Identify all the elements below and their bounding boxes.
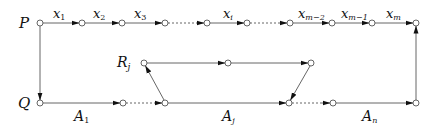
nodes [37,20,419,106]
label-xi: xi [223,6,233,22]
label-A1: A1 [72,108,89,125]
label-Q: Q [18,94,30,112]
label-R: Rj [116,54,131,72]
node-P [37,20,43,26]
edge-back [291,66,311,100]
label-An: An [360,108,377,125]
edge-to-Rj [146,66,165,100]
label-xm-1: xm−1 [341,6,368,22]
label-x3: x3 [134,6,146,22]
label-xm: xm [386,6,401,22]
label-Aj: Aj [220,108,235,125]
path-diagram: P Q Rj x1 x2 x3 xi xm−2 xm−1 xm A1 Aj An [0,0,435,132]
label-x1: x1 [53,6,65,22]
node-Rj [141,60,147,66]
detour-path [146,63,311,100]
label-xm-2: xm−2 [298,6,325,22]
node-Q [37,100,43,106]
label-x2: x2 [93,6,105,22]
label-P: P [18,14,30,32]
